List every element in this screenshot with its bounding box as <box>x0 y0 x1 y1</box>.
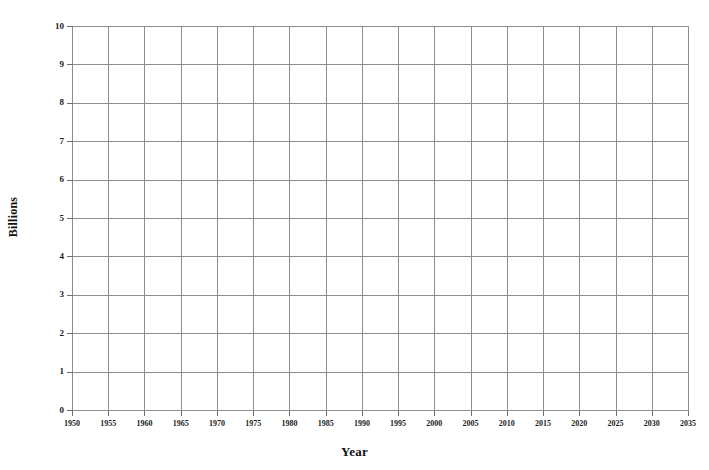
chart-figure: 012345678910 195019551960196519701975198… <box>0 0 709 470</box>
axis-ticks <box>0 0 709 470</box>
